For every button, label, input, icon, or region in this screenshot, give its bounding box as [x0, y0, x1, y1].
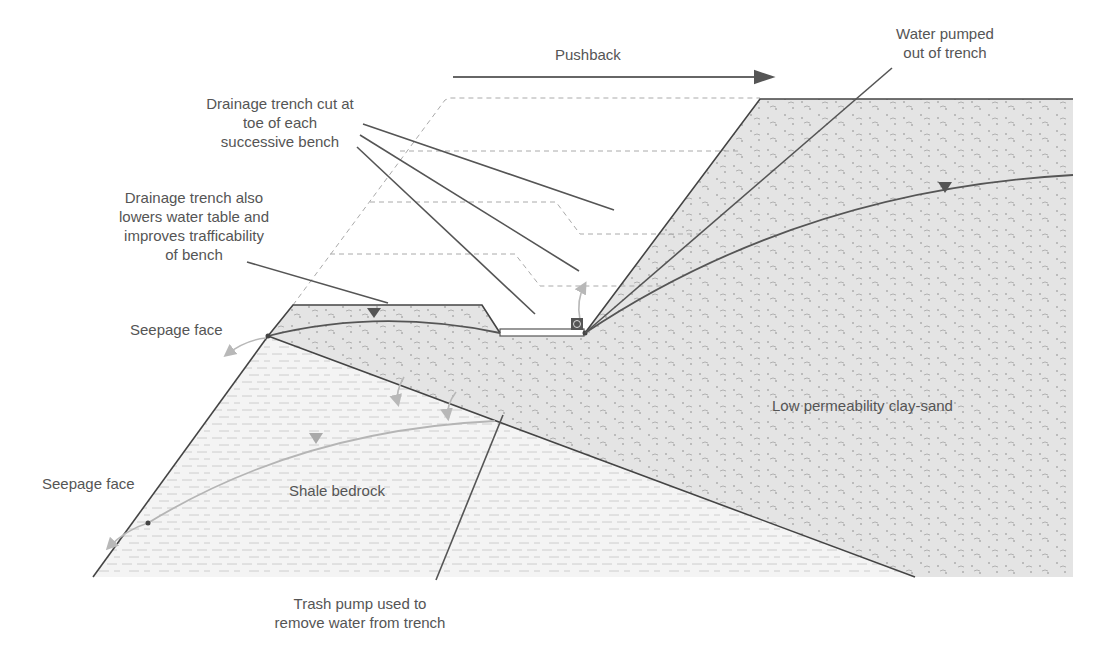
trash-pump-icon — [571, 318, 583, 330]
trash-pump-label: Trash pump used to remove water from tre… — [255, 594, 465, 632]
shale-bedrock-label: Shale bedrock — [289, 481, 385, 500]
seepage-face-upper-label: Seepage face — [130, 320, 223, 339]
seepage-face-lower-label: Seepage face — [42, 474, 135, 493]
seepage-point-lower — [146, 521, 151, 526]
pushback-label: Pushback — [555, 45, 621, 64]
drainage-trench-cut-label: Drainage trench cut at toe of each succe… — [190, 94, 370, 151]
drainage-trench-also-label: Drainage trench also lowers water table … — [104, 188, 284, 264]
drainage-trench — [500, 329, 584, 336]
water-pumped-label: Water pumped out of trench — [880, 24, 1010, 62]
seepage-point-upper — [266, 334, 271, 339]
clay-sand-label: Low permeability clay-sand — [772, 396, 953, 415]
